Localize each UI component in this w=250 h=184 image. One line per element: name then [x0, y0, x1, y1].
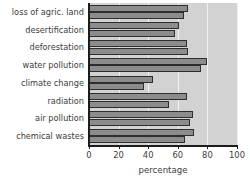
- bar: [89, 65, 201, 72]
- bar: [89, 129, 194, 136]
- x-tick-mark-0: [89, 145, 90, 149]
- bar: [89, 48, 188, 55]
- bar: [89, 40, 187, 47]
- bar: [89, 22, 179, 29]
- bar: [89, 111, 193, 118]
- x-axis-label: percentage: [89, 165, 237, 175]
- bar: [89, 12, 184, 19]
- x-tick-label-0: 0: [86, 150, 91, 160]
- plot-area: [89, 3, 237, 145]
- category-label: deforestation: [29, 43, 84, 52]
- bar-chart: loss of agric. landdesertificationdefore…: [0, 0, 250, 184]
- x-tick-label-80: 80: [202, 150, 213, 160]
- bar: [89, 76, 153, 83]
- category-label-column: loss of agric. landdesertificationdefore…: [0, 0, 86, 145]
- x-tick-label-60: 60: [172, 150, 183, 160]
- category-label: water pollution: [22, 61, 84, 70]
- gridline-100: [237, 3, 238, 145]
- x-tick-mark-60: [178, 145, 179, 149]
- category-label: radiation: [47, 96, 84, 105]
- x-tick-label-20: 20: [113, 150, 124, 160]
- category-label: chemical wastes: [16, 132, 84, 141]
- bar: [89, 5, 188, 12]
- bar: [89, 93, 187, 100]
- bar: [89, 83, 144, 90]
- x-tick-mark-100: [237, 145, 238, 149]
- bar: [89, 30, 175, 37]
- category-label: climate change: [21, 78, 84, 87]
- category-label: loss of agric. land: [12, 7, 84, 16]
- y-axis-line: [88, 3, 90, 146]
- x-tick-mark-80: [207, 145, 208, 149]
- x-axis-line: [88, 145, 238, 147]
- x-tick-label-40: 40: [143, 150, 154, 160]
- category-label: air pollution: [35, 114, 84, 123]
- x-tick-label-100: 100: [229, 150, 245, 160]
- gridline-80: [207, 3, 208, 145]
- bar: [89, 58, 207, 65]
- category-label: desertification: [25, 25, 84, 34]
- bar: [89, 136, 185, 143]
- bar: [89, 119, 190, 126]
- x-tick-mark-20: [119, 145, 120, 149]
- bar: [89, 101, 169, 108]
- x-tick-mark-40: [148, 145, 149, 149]
